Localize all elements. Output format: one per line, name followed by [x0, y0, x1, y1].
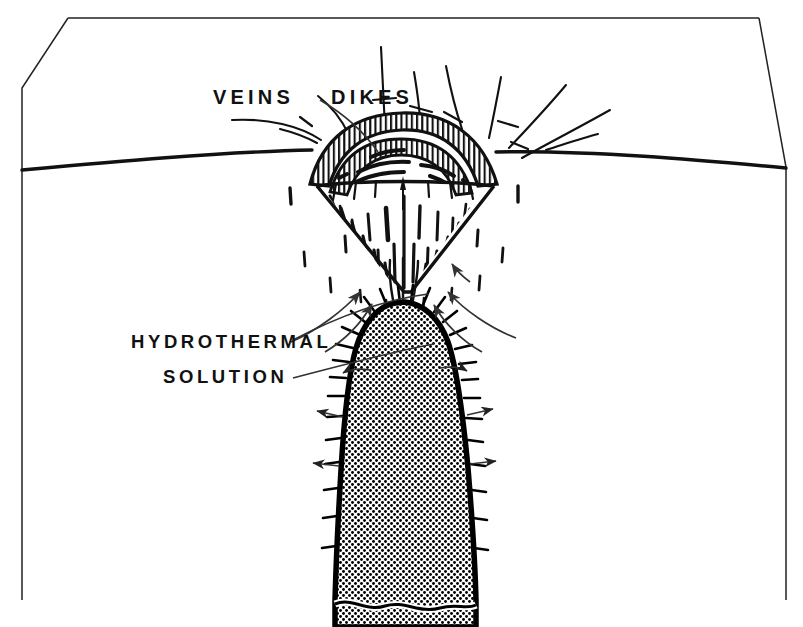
figure-page: VEINS DIKES HYDROTHERMAL SOLUTION [0, 0, 803, 627]
label-dikes: DIKES [331, 86, 413, 108]
label-veins: VEINS [213, 86, 294, 108]
label-hydrothermal: HYDROTHERMAL [131, 331, 331, 352]
stippled-intrusion [322, 258, 488, 627]
geologic-diagram: VEINS DIKES HYDROTHERMAL SOLUTION [0, 0, 803, 627]
label-solution: SOLUTION [163, 366, 287, 387]
